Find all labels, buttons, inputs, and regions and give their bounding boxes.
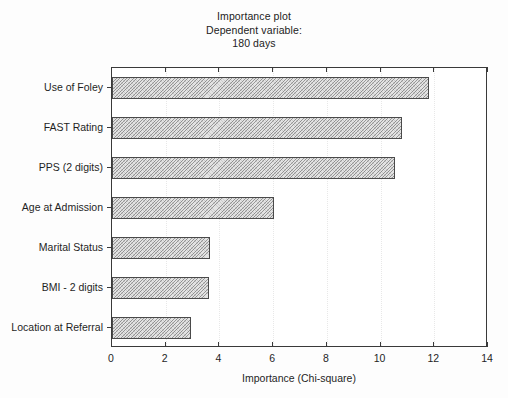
bar (112, 197, 274, 219)
bar (112, 117, 402, 139)
y-axis-label: Marital Status (39, 236, 103, 258)
chart-title-line-3: 180 days (0, 37, 508, 51)
bar (112, 157, 395, 179)
chart-title: Importance plot Dependent variable: 180 … (0, 10, 508, 51)
x-axis-tick (487, 67, 488, 72)
y-axis-label: BMI - 2 digits (42, 276, 103, 298)
x-axis-tick-label: 6 (269, 352, 275, 364)
y-axis-tick (107, 167, 111, 168)
x-axis-tick-label: 4 (216, 352, 222, 364)
y-axis-tick (107, 287, 111, 288)
x-axis-tick-label: 2 (162, 352, 168, 364)
bar (112, 77, 429, 99)
y-axis-label: PPS (2 digits) (39, 156, 103, 178)
x-axis-title: Importance (Chi-square) (111, 372, 487, 384)
y-axis-tick (107, 207, 111, 208)
y-axis-tick (107, 127, 111, 128)
chart-title-line-2: Dependent variable: (0, 24, 508, 38)
y-axis-label: Location at Referral (11, 316, 103, 338)
y-axis-tick (107, 87, 111, 88)
y-axis-labels: Use of FoleyFAST RatingPPS (2 digits)Age… (0, 67, 111, 347)
y-axis-label: Age at Admission (22, 196, 103, 218)
plot-area (111, 67, 487, 347)
x-axis-tick-labels: 02468101214 (111, 352, 487, 368)
x-axis-tick-label: 14 (481, 352, 493, 364)
x-axis-tick (487, 342, 488, 347)
bar (112, 237, 210, 259)
bar (112, 317, 191, 339)
importance-plot-figure: Importance plot Dependent variable: 180 … (0, 0, 508, 398)
bars-layer (112, 68, 486, 346)
x-axis-tick-label: 12 (427, 352, 439, 364)
x-axis-tick-label: 10 (374, 352, 386, 364)
x-axis-tick-label: 0 (108, 352, 114, 364)
y-axis-tick (107, 247, 111, 248)
y-axis-label: Use of Foley (44, 76, 103, 98)
y-axis-tick (107, 327, 111, 328)
chart-title-line-1: Importance plot (0, 10, 508, 24)
y-axis-label: FAST Rating (44, 116, 103, 138)
bar (112, 277, 209, 299)
x-axis-tick-label: 8 (323, 352, 329, 364)
